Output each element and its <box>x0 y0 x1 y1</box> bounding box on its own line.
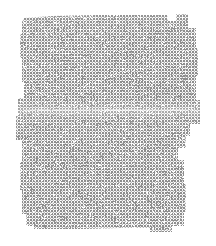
halftone-pattern-fill <box>0 0 216 246</box>
texture-swatch <box>0 0 216 246</box>
texture-swatch-svg <box>0 0 216 246</box>
image-canvas <box>0 0 216 246</box>
swatch-clipped-group <box>0 0 216 246</box>
